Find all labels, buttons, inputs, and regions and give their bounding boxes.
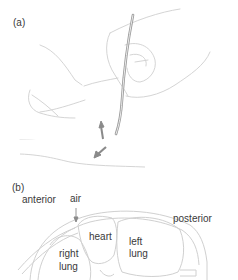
left-lung-label-1: left: [129, 236, 142, 247]
right-lung-label-1: right: [59, 248, 78, 259]
arrow-down-left-icon: [94, 147, 106, 158]
right-lung-label-2: lung: [59, 261, 78, 272]
left-lung-label-2: lung: [129, 248, 148, 259]
posterior-label: posterior: [173, 213, 212, 224]
panel-b-label: (b): [12, 182, 24, 193]
anterior-label: anterior: [22, 194, 56, 205]
figure: (a) (b) anterior air posterior heart lef…: [0, 0, 238, 280]
air-label: air: [70, 193, 81, 204]
heart-label: heart: [89, 231, 112, 242]
panel-a-label: (a): [13, 17, 25, 28]
panel-ab-lines: [0, 0, 238, 280]
